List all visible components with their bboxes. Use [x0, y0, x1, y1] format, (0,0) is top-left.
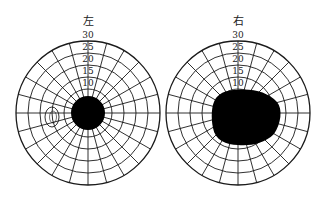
- radial-line: [91, 125, 107, 183]
- ring-label-20: 20: [82, 54, 94, 64]
- left-field-title: 左: [83, 15, 94, 28]
- radial-line: [37, 62, 79, 104]
- central-scotoma-left: [71, 96, 105, 130]
- ring-label-25: 25: [82, 42, 94, 52]
- radial-line: [100, 94, 158, 110]
- radial-line: [69, 125, 85, 183]
- ring-label-15: 15: [82, 66, 94, 76]
- visual-field-diagram: 左 30 25 20 15 10 右 30 25 20 15 10: [0, 0, 321, 199]
- radial-line: [37, 121, 79, 163]
- ring-label-20: 20: [232, 54, 244, 64]
- ring-label-30: 30: [232, 30, 244, 40]
- radial-line: [18, 94, 76, 110]
- right-field-title: 右: [233, 14, 244, 28]
- radial-line: [96, 121, 138, 163]
- radial-line: [100, 116, 158, 132]
- central-scotoma-right: [212, 90, 281, 146]
- ring-label-10: 10: [232, 78, 244, 88]
- ring-label-30: 30: [82, 30, 94, 40]
- ring-label-25: 25: [232, 42, 244, 52]
- ring-label-15: 15: [232, 66, 244, 76]
- radial-line: [96, 62, 138, 104]
- ring-label-10: 10: [82, 78, 94, 88]
